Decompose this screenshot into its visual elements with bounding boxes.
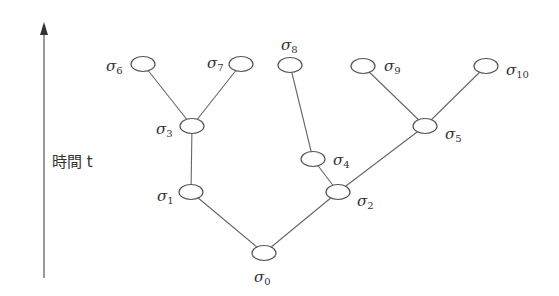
node-σ4 [301, 152, 325, 167]
edge-σ0-σ1 [191, 192, 264, 253]
edge-σ2-σ5 [338, 126, 425, 192]
node-σ6 [131, 57, 155, 72]
arrow-up-icon [40, 22, 48, 35]
node-label: σ5 [445, 125, 462, 144]
node-σ9 [351, 59, 375, 74]
edge-σ3-σ6 [143, 64, 192, 126]
node-label: σ7 [207, 54, 224, 73]
tree-diagram: σ0σ1σ2σ3σ4σ5σ6σ7σ8σ9σ10 [0, 0, 559, 296]
node-σ3 [180, 119, 204, 134]
node-σ7 [229, 57, 253, 72]
node-σ5 [413, 119, 437, 134]
node-label: σ1 [157, 187, 174, 206]
nodes: σ0σ1σ2σ3σ4σ5σ6σ7σ8σ9σ10 [106, 36, 529, 287]
node-σ10 [474, 59, 498, 74]
edge-σ1-σ3 [191, 126, 192, 192]
node-σ8 [278, 58, 302, 73]
node-σ2 [326, 185, 350, 200]
node-label: σ4 [333, 151, 350, 170]
node-label: σ6 [106, 57, 123, 76]
time-axis-label: 時間 t [52, 150, 93, 171]
node-σ0 [252, 246, 276, 261]
node-label: σ2 [357, 192, 374, 211]
edge-σ0-σ2 [264, 192, 338, 253]
node-σ1 [179, 185, 203, 200]
node-label: σ3 [156, 120, 173, 139]
edge-σ4-σ8 [290, 65, 313, 159]
node-label: σ8 [281, 36, 298, 55]
edge-σ5-σ10 [425, 66, 486, 126]
time-axis [40, 22, 48, 278]
node-label: σ0 [254, 268, 271, 287]
edge-σ3-σ7 [192, 64, 241, 126]
node-label: σ10 [506, 61, 529, 80]
node-label: σ9 [384, 57, 401, 76]
